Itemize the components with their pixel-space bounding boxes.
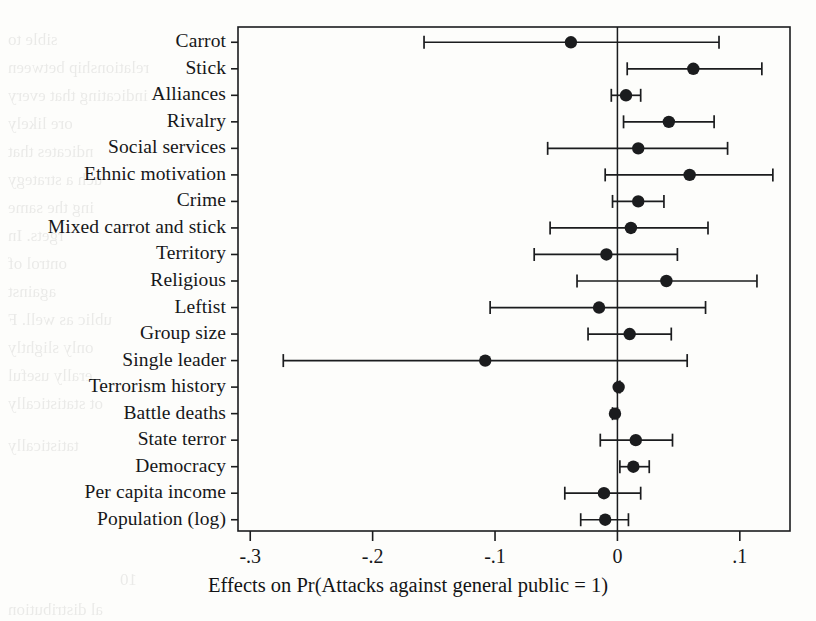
estimate-row	[620, 460, 649, 473]
category-label-rivalry: Rivalry	[167, 111, 226, 130]
category-label-religious: Religious	[150, 270, 226, 289]
point-estimate-marker	[687, 63, 699, 75]
x-tick-label: .1	[700, 545, 780, 568]
estimate-row	[609, 407, 621, 420]
point-estimate-marker	[565, 36, 577, 48]
category-label-single-leader: Single leader	[122, 350, 226, 369]
point-estimate-marker	[632, 142, 644, 154]
point-estimate-marker	[663, 116, 675, 128]
plot-frame	[238, 27, 790, 531]
estimate-row	[577, 275, 757, 288]
point-estimate-marker	[599, 514, 611, 526]
point-estimate-marker	[625, 222, 637, 234]
category-label-carrot: Carrot	[176, 31, 226, 50]
category-label-leftist: Leftist	[174, 297, 226, 316]
category-label-mixed-carrot-and-stick: Mixed carrot and stick	[48, 217, 226, 236]
category-label-population-log: Population (log)	[97, 509, 226, 528]
estimate-row	[565, 487, 641, 500]
estimate-row	[624, 115, 715, 128]
estimate-row	[605, 168, 773, 181]
category-label-per-capita-income: Per capita income	[85, 482, 226, 501]
category-label-democracy: Democracy	[135, 456, 226, 475]
category-label-crime: Crime	[177, 190, 226, 209]
point-estimate-marker	[630, 434, 642, 446]
estimate-row	[611, 89, 640, 102]
category-label-social-services: Social services	[108, 137, 226, 156]
forest-plot-figure: CarrotStickAlliancesRivalrySocial servic…	[0, 0, 816, 621]
estimate-row	[613, 195, 664, 208]
x-tick-label: -.2	[333, 545, 413, 568]
estimate-row	[534, 248, 677, 261]
estimate-row	[548, 142, 728, 155]
x-tick-label: -.3	[210, 545, 290, 568]
category-label-group-size: Group size	[140, 323, 226, 342]
estimate-row	[283, 354, 687, 367]
estimate-row	[612, 381, 624, 394]
point-estimate-marker	[593, 301, 605, 313]
x-tick-label: 0	[577, 545, 657, 568]
estimate-row	[588, 328, 671, 341]
estimate-row	[490, 301, 705, 314]
estimate-row	[627, 62, 762, 75]
category-label-alliances: Alliances	[151, 84, 226, 103]
point-estimate-marker	[620, 89, 632, 101]
point-estimate-marker	[598, 487, 610, 499]
category-label-stick: Stick	[185, 58, 226, 77]
point-estimate-marker	[623, 328, 635, 340]
point-estimate-marker	[660, 275, 672, 287]
category-label-state-terror: State terror	[138, 429, 226, 448]
category-label-terrorism-history: Terrorism history	[89, 376, 226, 395]
estimate-row	[424, 36, 719, 49]
point-estimate-marker	[479, 354, 491, 366]
x-axis-title: Effects on Pr(Attacks against general pu…	[0, 574, 816, 597]
estimate-row	[600, 434, 672, 447]
category-label-battle-deaths: Battle deaths	[123, 403, 226, 422]
category-label-ethnic-motivation: Ethnic motivation	[84, 164, 226, 183]
point-estimate-marker	[632, 195, 644, 207]
point-estimate-marker	[627, 460, 639, 472]
point-estimate-marker	[612, 381, 624, 393]
point-estimate-marker	[600, 248, 612, 260]
point-estimate-marker	[609, 407, 621, 419]
estimate-row	[581, 513, 629, 526]
category-label-territory: Territory	[156, 243, 226, 262]
x-tick-label: -.1	[455, 545, 535, 568]
estimate-row	[550, 221, 708, 234]
point-estimate-marker	[683, 169, 695, 181]
